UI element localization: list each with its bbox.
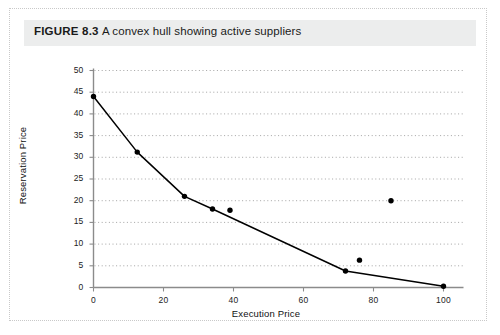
y-tick-label-20: 20 — [62, 195, 84, 205]
data-point — [91, 94, 96, 99]
y-tick-label-35: 35 — [62, 130, 84, 140]
data-point — [227, 208, 232, 213]
x-tick-label-40: 40 — [219, 295, 249, 305]
y-tick-label-15: 15 — [62, 216, 84, 226]
axes — [94, 69, 464, 288]
y-tick-label-40: 40 — [62, 108, 84, 118]
y-tick-label-10: 10 — [62, 238, 84, 248]
figure-container: FIGURE 8.3 A convex hull showing active … — [0, 0, 500, 335]
gridlines — [95, 71, 464, 288]
data-point — [441, 284, 446, 289]
y-axis-title: Reservation Price — [17, 106, 28, 226]
x-tick-label-80: 80 — [359, 295, 389, 305]
data-point — [182, 194, 187, 199]
x-tick-label-60: 60 — [289, 295, 319, 305]
y-tick-label-45: 45 — [62, 86, 84, 96]
x-tick-label-0: 0 — [79, 295, 109, 305]
data-points-series-2 — [227, 198, 393, 263]
y-tick-label-50: 50 — [62, 65, 84, 75]
y-tick-label-25: 25 — [62, 173, 84, 183]
data-point — [135, 149, 140, 154]
x-tick-label-100: 100 — [429, 295, 459, 305]
axis-ticks — [90, 71, 444, 292]
chart-plot-area: Reservation Price Execution Price 051015… — [0, 0, 500, 335]
y-tick-label-5: 5 — [62, 260, 84, 270]
x-axis-title: Execution Price — [196, 308, 336, 319]
convex-hull-line — [94, 97, 444, 287]
y-tick-label-0: 0 — [62, 282, 84, 292]
data-points-series-1 — [91, 94, 446, 289]
y-tick-label-30: 30 — [62, 151, 84, 161]
data-point — [210, 206, 215, 211]
data-point — [357, 257, 362, 262]
x-tick-label-20: 20 — [149, 295, 179, 305]
data-point — [343, 268, 348, 273]
data-point — [388, 198, 393, 203]
